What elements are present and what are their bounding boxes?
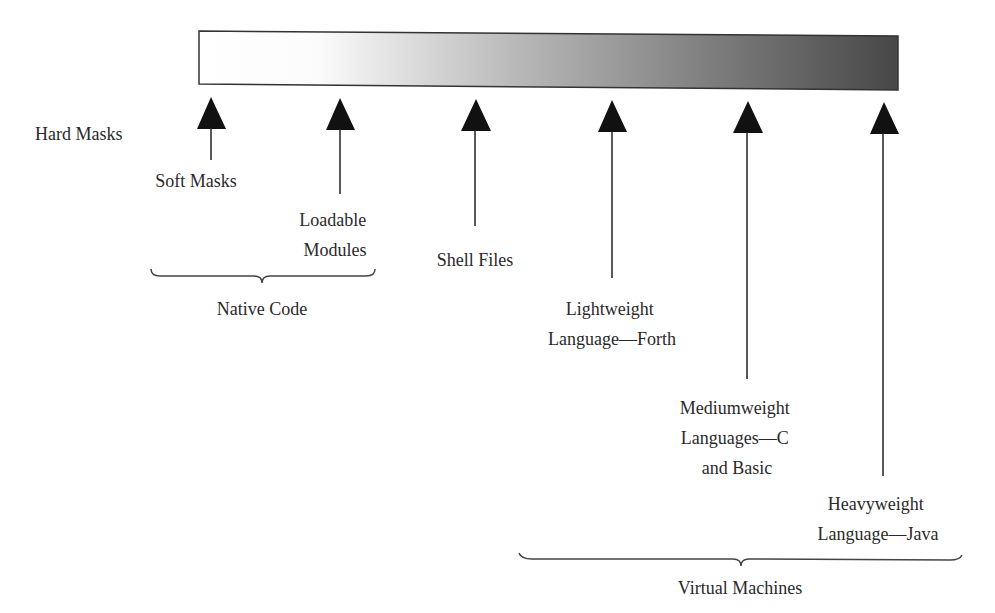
label-lightweight-language: Lightweight Language—Forth xyxy=(548,299,676,349)
arrow-head-icon xyxy=(870,102,899,134)
label-loadable-modules: Loadable Modules xyxy=(299,210,370,260)
arrow-heavyweight-language xyxy=(870,102,899,476)
arrow-mediumweight-languages xyxy=(733,101,763,379)
group-label-native-code: Native Code xyxy=(217,299,307,319)
arrow-lightweight-language xyxy=(598,100,627,278)
label-soft-masks: Soft Masks xyxy=(155,171,237,191)
spectrum-bar xyxy=(199,31,898,90)
arrow-loadable-modules xyxy=(326,98,355,194)
arrow-head-icon xyxy=(326,98,355,130)
arrow-hard-soft-masks xyxy=(197,97,226,160)
arrow-head-icon xyxy=(461,99,491,131)
spectrum-diagram: Hard Masks Soft Masks Loadable Modules S… xyxy=(0,0,995,613)
label-mediumweight-languages: Mediumweight Languages—C and Basic xyxy=(680,398,795,478)
label-heavyweight-language: Heavyweight Language—Java xyxy=(818,494,939,544)
brace-native-code xyxy=(151,269,375,283)
label-hard-masks: Hard Masks xyxy=(35,124,123,144)
label-shell-files: Shell Files xyxy=(437,250,514,270)
arrow-head-icon xyxy=(598,100,627,132)
arrow-head-icon xyxy=(733,101,763,133)
arrow-head-icon xyxy=(197,97,226,129)
brace-virtual-machines xyxy=(519,553,962,566)
arrow-shell-files xyxy=(461,99,491,226)
group-label-virtual-machines: Virtual Machines xyxy=(678,578,802,598)
